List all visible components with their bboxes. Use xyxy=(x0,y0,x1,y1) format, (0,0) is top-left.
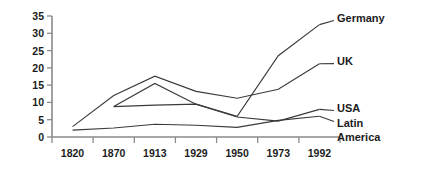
series-line-usa xyxy=(114,104,320,121)
x-label-1929: 1929 xyxy=(184,147,208,159)
y-label-15: 15 xyxy=(32,79,44,91)
leader-usa xyxy=(319,109,334,110)
y-label-0: 0 xyxy=(38,131,44,143)
y-label-5: 5 xyxy=(38,114,44,126)
x-axis-tick-labels: 1820 1870 1913 1929 1950 1973 1992 xyxy=(61,147,331,159)
series-label-usa: USA xyxy=(337,102,360,114)
leader-germany xyxy=(319,21,334,25)
x-label-1913: 1913 xyxy=(143,147,167,159)
x-label-1950: 1950 xyxy=(225,147,249,159)
series-lines xyxy=(73,25,320,130)
x-axis xyxy=(52,137,340,143)
series-line-uk xyxy=(73,64,320,127)
y-label-20: 20 xyxy=(32,62,44,74)
series-label-america: America xyxy=(337,131,381,143)
x-label-1870: 1870 xyxy=(102,147,126,159)
y-label-10: 10 xyxy=(32,96,44,108)
series-label-germany: Germany xyxy=(337,12,386,24)
x-label-1992: 1992 xyxy=(308,147,332,159)
line-chart: 35 30 25 20 15 10 5 0 1820 1870 1913 192… xyxy=(0,0,435,181)
y-axis xyxy=(47,16,52,137)
y-label-30: 30 xyxy=(32,27,44,39)
y-label-35: 35 xyxy=(32,10,44,22)
series-line-latin-america xyxy=(73,116,320,130)
y-axis-tick-labels: 35 30 25 20 15 10 5 0 xyxy=(32,10,44,143)
y-label-25: 25 xyxy=(32,45,44,57)
series-label-uk: UK xyxy=(337,55,353,67)
series-labels: Germany UK USA Latin America xyxy=(337,12,386,143)
chart-plot-area: 35 30 25 20 15 10 5 0 1820 1870 1913 192… xyxy=(0,0,435,181)
series-line-germany xyxy=(114,25,320,117)
series-label-leaders xyxy=(319,21,334,122)
leader-latin-america xyxy=(319,116,334,121)
x-label-1973: 1973 xyxy=(267,147,291,159)
x-label-1820: 1820 xyxy=(61,147,85,159)
series-label-latin: Latin xyxy=(337,117,364,129)
